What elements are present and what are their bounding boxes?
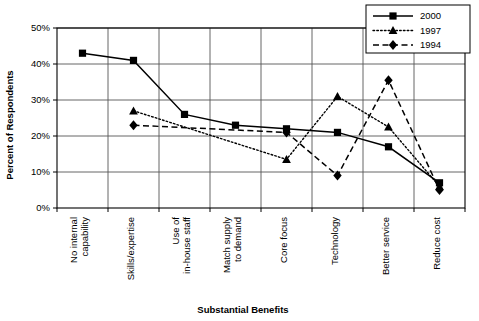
legend-label-2000: 2000 xyxy=(420,10,441,21)
data-point-square xyxy=(385,143,392,150)
data-point-square xyxy=(334,129,341,136)
x-category-label: Reduce cost xyxy=(431,217,442,270)
data-point-square xyxy=(181,111,188,118)
x-category-label: No internal xyxy=(68,217,79,263)
y-tick-label: 30% xyxy=(31,94,51,105)
y-tick-label: 10% xyxy=(31,166,51,177)
chart-legend: 200019971994 xyxy=(366,5,470,53)
x-category-label: in-house staff xyxy=(181,217,192,274)
x-category-label: Technology xyxy=(329,217,340,265)
x-category-label: Better service xyxy=(380,217,391,275)
data-point-triangle xyxy=(384,123,393,131)
legend-box xyxy=(366,5,470,53)
x-category-label: Core focus xyxy=(278,217,289,263)
series-1994 xyxy=(129,75,443,195)
legend-label-1997: 1997 xyxy=(420,25,441,36)
y-tick-label: 20% xyxy=(31,130,51,141)
data-point-triangle xyxy=(333,92,342,100)
line-chart: 0%10%20%30%40%50% No internalcapabilityS… xyxy=(0,0,479,321)
data-point-diamond xyxy=(384,75,392,85)
x-category-label: capability xyxy=(79,217,90,257)
data-point-square xyxy=(79,50,86,57)
data-point-diamond xyxy=(129,120,137,130)
y-tick-label: 50% xyxy=(31,22,51,33)
x-category-label: Skills/expertise xyxy=(125,217,136,280)
x-category-label: Use of xyxy=(170,217,181,245)
data-point-triangle xyxy=(129,106,138,114)
x-axis-title: Substantial Benefits xyxy=(197,304,288,315)
legend-label-1994: 1994 xyxy=(420,39,441,50)
data-point-diamond xyxy=(435,185,443,195)
chart-container: 0%10%20%30%40%50% No internalcapabilityS… xyxy=(0,0,479,321)
grid-lines xyxy=(57,28,465,208)
y-tick-label: 40% xyxy=(31,58,51,69)
data-point-square xyxy=(232,122,239,129)
data-point-square xyxy=(130,57,137,64)
y-axis-title: Percent of Respondents xyxy=(4,70,15,179)
data-point-square xyxy=(389,12,396,19)
x-category-label: Match supply xyxy=(221,217,232,273)
y-tick-label: 0% xyxy=(36,202,50,213)
x-category-label: to demand xyxy=(232,217,243,262)
x-axis-category-labels: No internalcapabilitySkills/expertiseUse… xyxy=(68,217,441,281)
